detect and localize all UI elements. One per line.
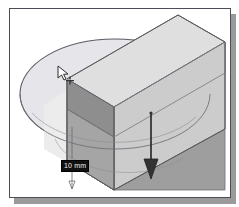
modeling-viewport-frame[interactable]: 10 mm — [9, 8, 231, 198]
modeling-canvas[interactable] — [10, 9, 230, 197]
dimension-value-badge[interactable]: 10 mm — [61, 160, 89, 172]
screenshot-root: 10 mm — [0, 0, 239, 207]
